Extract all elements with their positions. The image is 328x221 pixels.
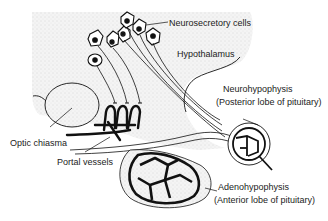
label-portal-vessels: Portal vessels	[57, 157, 113, 167]
optic-chiasma	[45, 83, 99, 127]
label-neurohypophysis-sub: (Posterior lobe of pituitary)	[216, 97, 322, 107]
label-adenohypophysis: Adenohypophysis	[218, 182, 289, 192]
label-adenohypophysis-sub: (Anterior lobe of pituitary)	[214, 195, 315, 205]
neurohypophysis-outline	[228, 123, 270, 165]
leader-portal-vessels	[85, 137, 110, 152]
label-optic-chiasma: Optic chiasma	[10, 138, 67, 148]
neurohypophysis-vessel	[259, 156, 272, 170]
label-neurosecretory-cells: Neurosecretory cells	[169, 18, 251, 28]
label-neurohypophysis: Neurohypophysis	[223, 84, 293, 94]
label-hypothalamus: Hypothalamus	[177, 49, 235, 59]
